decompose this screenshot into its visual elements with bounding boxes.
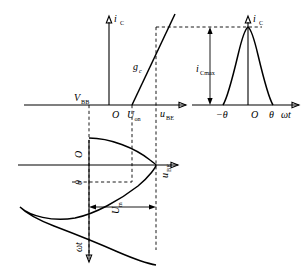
transfer-x-axis-label: u BE (160, 108, 174, 121)
transfer-origin-label: O (112, 109, 119, 120)
svg-text:ωt: ωt (73, 242, 84, 252)
transfer-line (132, 14, 175, 105)
svg-text:BE: BE (166, 114, 174, 121)
svg-text:O: O (73, 151, 84, 158)
svg-text:C: C (120, 19, 124, 26)
svg-text:g: g (133, 61, 138, 72)
drive-voltage-curve (20, 138, 156, 265)
peak-dimension-arrow-up (207, 27, 212, 34)
peak-dimension-arrow-down (207, 98, 212, 105)
svg-text:Cmax: Cmax (200, 69, 216, 76)
negative-theta-label: −θ (216, 109, 228, 120)
svg-text:i: i (114, 13, 117, 24)
amplitude-arrow-right (149, 204, 156, 209)
svg-text:i: i (253, 13, 256, 24)
diagram-svg: i C u BE O V BB U on g c (0, 0, 306, 269)
drive-u-axis-label: u BE (159, 164, 172, 178)
svg-text:m: m (116, 202, 123, 207)
drive-time-axis-label: ωt (73, 242, 84, 252)
peak-current-label: i Cmax (196, 63, 216, 76)
svg-text:u: u (159, 173, 170, 178)
svg-text:BE: BE (165, 164, 172, 172)
current-x-axis-label: ωt (281, 109, 291, 120)
svg-text:on: on (135, 115, 141, 122)
figure-container: i C u BE O V BB U on g c (0, 0, 306, 269)
transconductance-label: g c (133, 61, 142, 74)
transfer-y-axis-label: i C (114, 13, 124, 26)
svg-text:θ: θ (73, 180, 84, 185)
collector-current-waveform-panel: i Cmax i C ωt −θ O θ (192, 13, 299, 120)
svg-text:C: C (259, 19, 263, 26)
current-y-axis-arrowhead (245, 16, 250, 23)
bias-voltage-label: V BB (74, 92, 89, 105)
drive-theta-label: θ (73, 180, 84, 185)
amplitude-arrow-left (89, 204, 96, 209)
amplitude-dimension-arrow (89, 204, 156, 209)
transfer-y-axis-arrowhead (106, 16, 111, 23)
svg-text:c: c (139, 67, 142, 74)
peak-current-dimension-arrow (207, 27, 212, 105)
transfer-characteristic-panel: i C u BE O V BB U on g c (24, 13, 262, 262)
svg-text:i: i (196, 63, 199, 74)
positive-theta-label: θ (269, 109, 274, 120)
svg-text:BB: BB (81, 98, 89, 105)
drive-origin-label: O (73, 151, 84, 158)
svg-text:u: u (160, 108, 165, 119)
turn-on-voltage-label: U on (127, 109, 141, 122)
current-origin-label: O (251, 109, 258, 120)
input-drive-voltage-waveform-panel: O θ u BE ωt U m (18, 138, 178, 265)
current-y-axis-label: i C (253, 13, 263, 26)
